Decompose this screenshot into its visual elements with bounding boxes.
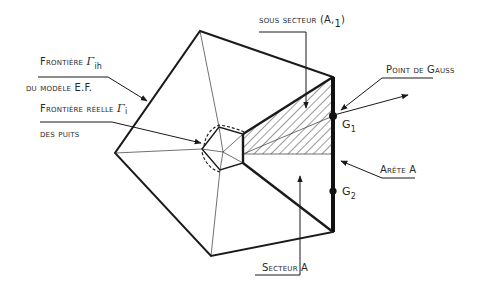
label-g1: G1 [342, 118, 356, 131]
label-g2: G2 [342, 185, 356, 198]
gauss-point-g2 [329, 187, 336, 194]
label-secteur-a: Secteur A [262, 262, 308, 273]
gauss-point-g1 [329, 112, 337, 120]
label-sous-secteur: sous secteur (A,1) [259, 14, 345, 25]
finite-element-sector-diagram [0, 0, 483, 291]
label-des-puits: des puits [40, 128, 79, 139]
label-frontiere-model: Frontière Γih [40, 55, 102, 68]
sub-sector-hatched-region [243, 77, 333, 154]
label-frontiere-reelle: Frontière réelle Γi [40, 102, 127, 115]
label-point-de-gauss: Point de Gauss [386, 64, 455, 75]
label-frontiere-model-line2: du modèle E.F. [26, 82, 92, 93]
label-arete-a: Arête A [380, 164, 416, 175]
